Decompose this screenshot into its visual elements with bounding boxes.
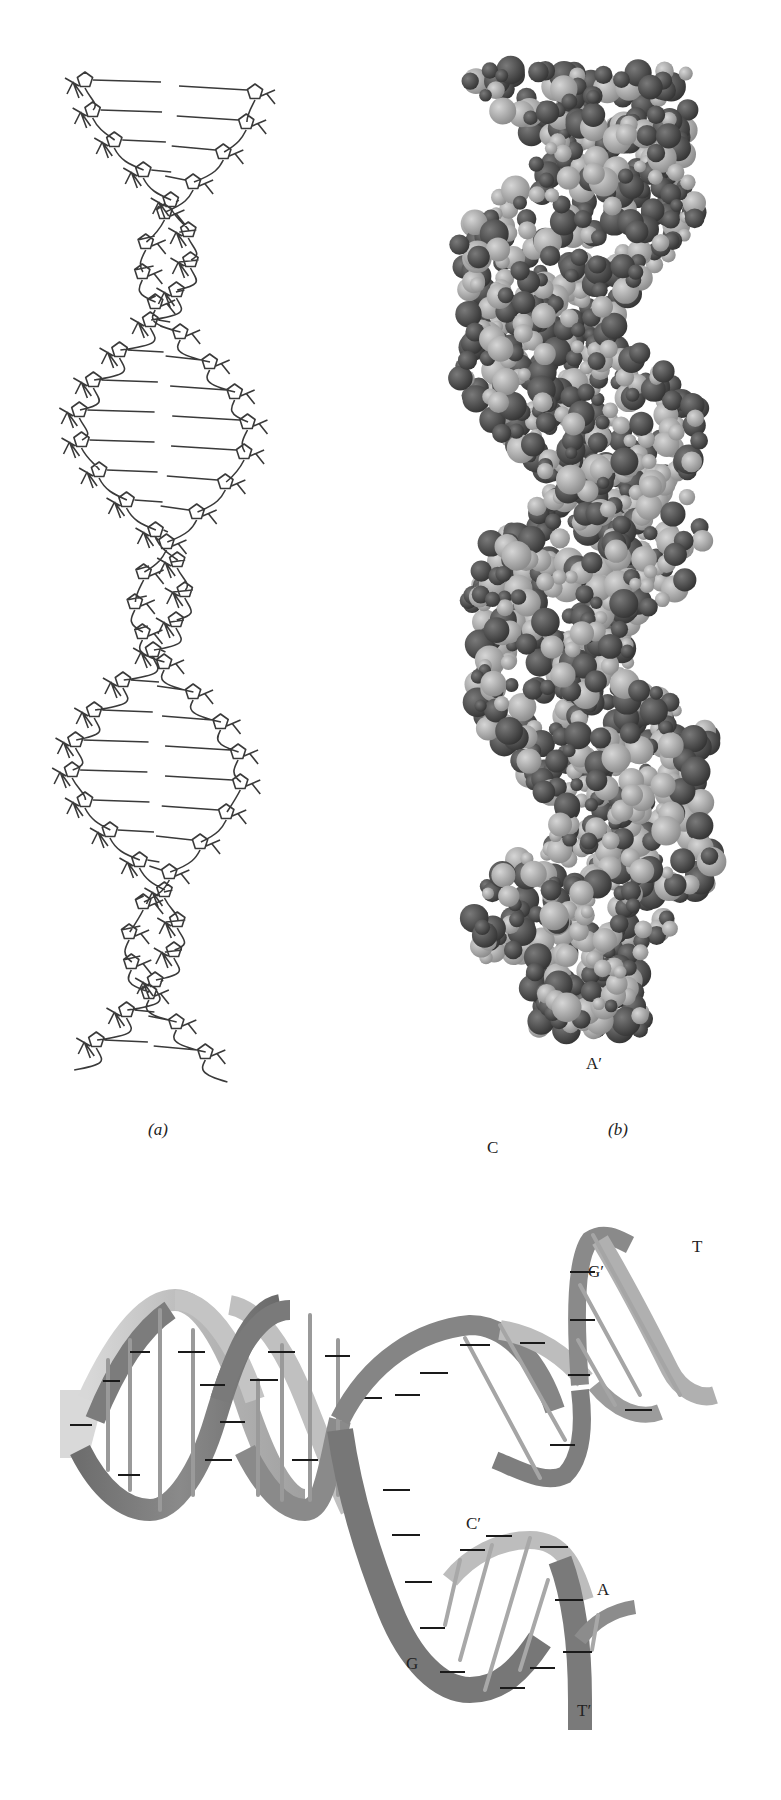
caption-b: (b) [608, 1120, 628, 1140]
label-g-prime: G′ [588, 1262, 604, 1282]
label-c: C [487, 1138, 498, 1158]
caption-a: (a) [148, 1120, 168, 1140]
label-t-prime: T′ [577, 1701, 591, 1721]
label-a: A [597, 1580, 609, 1600]
stick-model-panel [0, 0, 390, 1100]
label-g: G [406, 1654, 418, 1674]
label-c-prime: C′ [466, 1514, 481, 1534]
label-a-prime: A′ [586, 1054, 602, 1074]
stick-model-helix [0, 0, 390, 1100]
space-filling-model-panel [390, 0, 781, 1100]
space-filling-helix [390, 0, 781, 1100]
ribbon-helix [0, 1180, 781, 1800]
ribbon-diagram-panel: A′ T C G′ C′ A G T′ [0, 1180, 781, 1800]
label-t: T [692, 1237, 702, 1257]
